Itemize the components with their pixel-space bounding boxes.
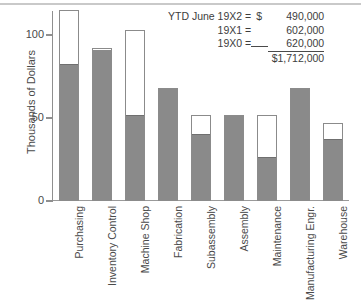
annotation-row-label: YTD June 19X2 = [168,10,251,24]
annotation-row-label: 19X0 = [218,37,252,51]
annotation-row-currency [251,46,268,47]
bar-total-outline [59,10,79,201]
bar-group [125,10,145,201]
bar-total-outline [125,30,145,201]
bar-total-outline [158,88,178,201]
bar-group [92,10,112,201]
bar-filled-segment [192,134,210,200]
bar-filled-segment [258,157,276,200]
x-axis-category-label: Warehouse [337,206,349,259]
bar-filled-segment [126,115,144,200]
y-axis-title: Thousands of Dollars [25,17,37,187]
x-axis-category-label: Manufacturing Engr. [304,206,316,300]
annotation-row: 19X0 =620,000 [168,37,324,52]
bar-filled-segment [291,89,309,200]
top-divider-rule [0,3,361,5]
bar-total-outline [224,115,244,201]
y-axis-tick-label: 0 [8,194,44,206]
x-axis-category-label: Subassembly [205,206,217,269]
chart-figure: Thousands of Dollars 050100 PurchasingIn… [0,0,361,307]
y-axis-tick-label: 100 [8,28,44,40]
bar-total-outline [290,88,310,201]
x-axis-category-label: Assembly [238,206,250,252]
bar-filled-segment [225,116,243,200]
x-axis-category-label: Inventory Control [106,206,118,286]
bar-total-outline [257,115,277,201]
bar-total-outline [191,115,211,201]
x-axis-category-label: Machine Shop [139,206,151,273]
bar-total-outline [92,48,112,201]
bar-filled-segment [159,89,177,200]
bar-group [323,10,343,201]
annotation-row-value: 620,000 [268,37,324,52]
ytd-annotation-block: YTD June 19X2 =$490,00019X1 =602,00019X0… [168,10,324,65]
x-axis-category-label: Purchasing [73,206,85,259]
x-axis-category-label: Fabrication [172,206,184,258]
bar-filled-segment [60,64,78,200]
x-axis-category-label: Maintenance [271,206,283,266]
annotation-row-currency: $ [251,10,268,24]
bar-filled-segment [93,50,111,200]
annotation-row-label: 19X1 = [218,24,252,38]
annotation-row: 19X1 =602,000 [168,24,324,38]
annotation-row-value: 490,000 [268,10,324,24]
bar-group [59,10,79,201]
annotation-total-row: $1,712,000 [168,52,324,66]
annotation-row: YTD June 19X2 =$490,000 [168,10,324,24]
annotation-total-value: $1,712,000 [245,52,324,66]
bar-filled-segment [324,139,342,200]
bar-total-outline [323,123,343,201]
y-axis-tick-label: 50 [8,111,44,123]
annotation-row-value: 602,000 [268,24,324,38]
